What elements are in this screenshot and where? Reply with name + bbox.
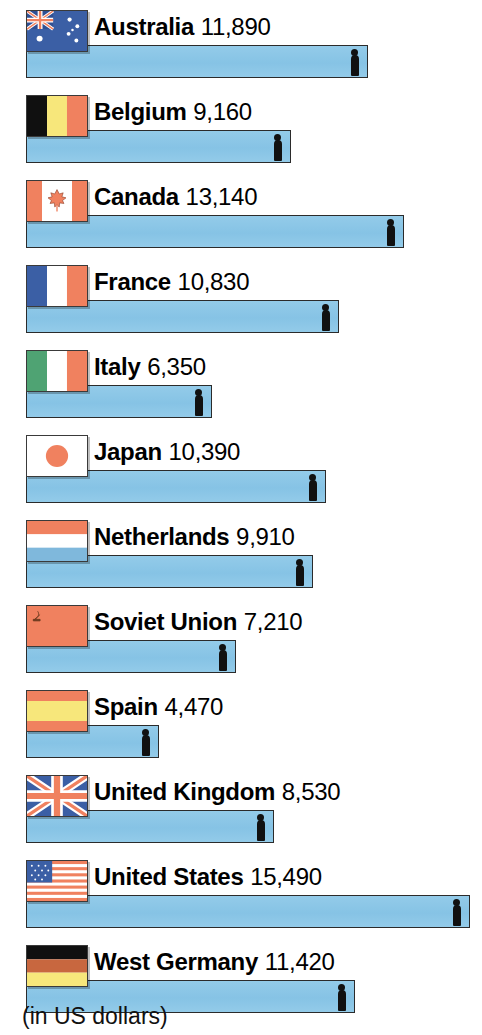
country-name: Canada [94, 183, 179, 210]
country-value: 15,490 [250, 863, 322, 890]
belgium-flag [26, 95, 88, 137]
bar-label: France 10,830 [94, 265, 249, 299]
bar-row: Canada 13,140 [0, 170, 482, 255]
person-body-icon [195, 395, 203, 416]
person-figure-icon [349, 49, 360, 76]
person-body-icon [309, 480, 317, 501]
country-name: Soviet Union [94, 608, 237, 635]
italy-flag [26, 350, 88, 392]
person-body-icon [142, 735, 150, 756]
person-figure-icon [294, 559, 305, 586]
country-name: Australia [94, 13, 194, 40]
bar-label: West Germany 11,420 [94, 945, 335, 979]
person-figure-icon [193, 389, 204, 416]
person-figure-icon [336, 984, 347, 1011]
person-body-icon [274, 140, 282, 161]
bar-label: Belgium 9,160 [94, 95, 252, 129]
country-name: West Germany [94, 948, 258, 975]
country-value: 7,210 [244, 608, 303, 635]
country-name: United Kingdom [94, 778, 275, 805]
bar-label: Canada 13,140 [94, 180, 257, 214]
bar-label: Italy 6,350 [94, 350, 206, 384]
australia-flag [26, 10, 88, 52]
spain-flag [26, 690, 88, 732]
bar-row: Australia 11,890 [0, 0, 482, 85]
country-value: 4,470 [165, 693, 224, 720]
bar-row: Netherlands 9,910 [0, 510, 482, 595]
united-kingdom-flag [26, 775, 88, 817]
country-value: 11,420 [265, 948, 335, 975]
person-body-icon [322, 310, 330, 331]
bar-label: Soviet Union 7,210 [94, 605, 302, 639]
bar-row: France 10,830 [0, 255, 482, 340]
person-figure-icon [255, 814, 266, 841]
japan-flag [26, 435, 88, 477]
person-body-icon [257, 820, 265, 841]
country-name: Spain [94, 693, 158, 720]
country-value: 8,530 [282, 778, 341, 805]
bar-label: United Kingdom 8,530 [94, 775, 340, 809]
person-body-icon [453, 905, 461, 926]
person-figure-icon [272, 134, 283, 161]
united-states-flag [26, 860, 88, 902]
bar-row: Belgium 9,160 [0, 85, 482, 170]
person-body-icon [351, 55, 359, 76]
person-figure-icon [320, 304, 331, 331]
person-figure-icon [307, 474, 318, 501]
country-value: 10,390 [169, 438, 241, 465]
person-figure-icon [451, 899, 462, 926]
bar-row: Soviet Union 7,210 [0, 595, 482, 680]
bar-row: United Kingdom 8,530 [0, 765, 482, 850]
person-body-icon [338, 990, 346, 1011]
bar-label: Japan 10,390 [94, 435, 240, 469]
france-flag [26, 265, 88, 307]
west-germany-flag [26, 945, 88, 987]
bar-label: Australia 11,890 [94, 10, 271, 44]
country-name: Japan [94, 438, 162, 465]
netherlands-flag [26, 520, 88, 562]
bar-label: United States 15,490 [94, 860, 322, 894]
person-figure-icon [140, 729, 151, 756]
person-body-icon [296, 565, 304, 586]
person-figure-icon [217, 644, 228, 671]
country-name: Belgium [94, 98, 187, 125]
value-bar [26, 895, 470, 928]
person-body-icon [387, 225, 395, 246]
person-figure-icon [385, 219, 396, 246]
country-value: 11,890 [201, 13, 271, 40]
bar-row: Spain 4,470 [0, 680, 482, 765]
bar-row: Japan 10,390 [0, 425, 482, 510]
country-name: Netherlands [94, 523, 229, 550]
soviet-union-flag [26, 605, 88, 647]
bar-row: United States 15,490 [0, 850, 482, 935]
canada-flag [26, 180, 88, 222]
bar-label: Netherlands 9,910 [94, 520, 295, 554]
income-per-capita-bar-chart: Australia 11,890 Belgium 9,160 Canada 13… [0, 0, 482, 1035]
units-note: (in US dollars) [22, 1003, 168, 1030]
country-name: Italy [94, 353, 141, 380]
bar-row: Italy 6,350 [0, 340, 482, 425]
country-value: 13,140 [186, 183, 258, 210]
bar-fill [27, 896, 469, 927]
country-value: 9,910 [236, 523, 295, 550]
country-name: France [94, 268, 171, 295]
country-value: 9,160 [193, 98, 252, 125]
person-body-icon [219, 650, 227, 671]
bar-label: Spain 4,470 [94, 690, 223, 724]
country-value: 6,350 [147, 353, 206, 380]
country-value: 10,830 [178, 268, 250, 295]
country-name: United States [94, 863, 243, 890]
